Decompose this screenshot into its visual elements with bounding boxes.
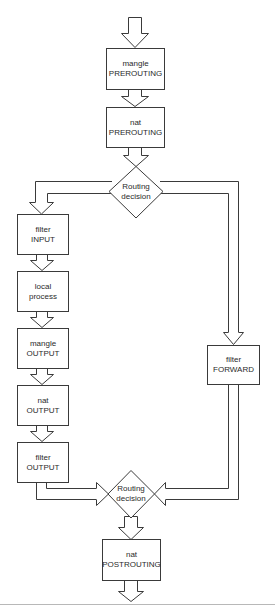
- mangle-prerouting-box: mangle PREROUTING: [106, 48, 165, 90]
- filter-input-table: filter: [35, 225, 50, 235]
- nat-output-box: nat OUTPUT: [17, 385, 69, 426]
- filter-forward-chain: FORWARD: [213, 365, 254, 375]
- filter-input-box: filter INPUT: [17, 214, 69, 255]
- arrow-filter-forward-to-routing-2: [166, 385, 239, 500]
- mangle-output-box: mangle OUTPUT: [17, 328, 69, 369]
- filter-output-box: filter OUTPUT: [17, 442, 69, 483]
- arrow-nat-output-to-filter-output: [31, 426, 54, 442]
- mangle-prerouting-chain: PREROUTING: [109, 69, 162, 79]
- nat-postrouting-table: nat: [126, 550, 137, 560]
- filter-output-chain: OUTPUT: [27, 463, 60, 473]
- arrow-routing-to-filter-forward: [160, 182, 239, 333]
- arrow-filter-input-to-local-process: [31, 255, 54, 271]
- arrow-local-process-to-mangle-output: [31, 312, 54, 328]
- arrowhead-filter-input: [30, 203, 54, 215]
- routing-decision-2-label: Routing decision: [108, 484, 154, 504]
- arrowhead-routing-2-left: [97, 483, 109, 506]
- nat-prerouting-table: nat: [130, 118, 141, 128]
- arrowhead-filter-forward: [224, 333, 244, 345]
- local-process-box: local process: [17, 271, 69, 312]
- mangle-output-chain: OUTPUT: [27, 349, 60, 359]
- mangle-output-table: mangle: [30, 339, 56, 349]
- filter-forward-table: filter: [226, 355, 241, 365]
- arrow-mangle-to-nat-prerouting: [122, 90, 149, 107]
- nat-output-table: nat: [37, 396, 48, 406]
- filter-forward-box: filter FORWARD: [207, 345, 260, 385]
- bottom-separator: [0, 604, 275, 605]
- arrow-exit: [119, 581, 144, 602]
- filter-input-chain: INPUT: [31, 235, 55, 245]
- nat-postrouting-box: nat POSTROUTING: [102, 539, 161, 581]
- routing-decision-1-label: Routing decision: [110, 182, 162, 202]
- arrow-routing-2-to-postrouting: [119, 517, 144, 540]
- nat-prerouting-box: nat PREROUTING: [106, 107, 165, 148]
- arrow-entry: [122, 18, 149, 48]
- arrow-nat-prerouting-to-routing: [124, 148, 149, 167]
- nat-postrouting-chain: POSTROUTING: [102, 560, 161, 570]
- arrow-routing-to-filter-input: [36, 182, 113, 203]
- arrow-mangle-output-to-nat-output: [31, 369, 54, 385]
- arrowhead-routing-2-right: [155, 483, 166, 506]
- arrow-filter-output-to-routing-2: [37, 483, 97, 500]
- nat-output-chain: OUTPUT: [27, 406, 60, 416]
- mangle-prerouting-table: mangle: [122, 59, 148, 69]
- filter-output-table: filter: [35, 453, 50, 463]
- nat-prerouting-chain: PREROUTING: [109, 128, 162, 138]
